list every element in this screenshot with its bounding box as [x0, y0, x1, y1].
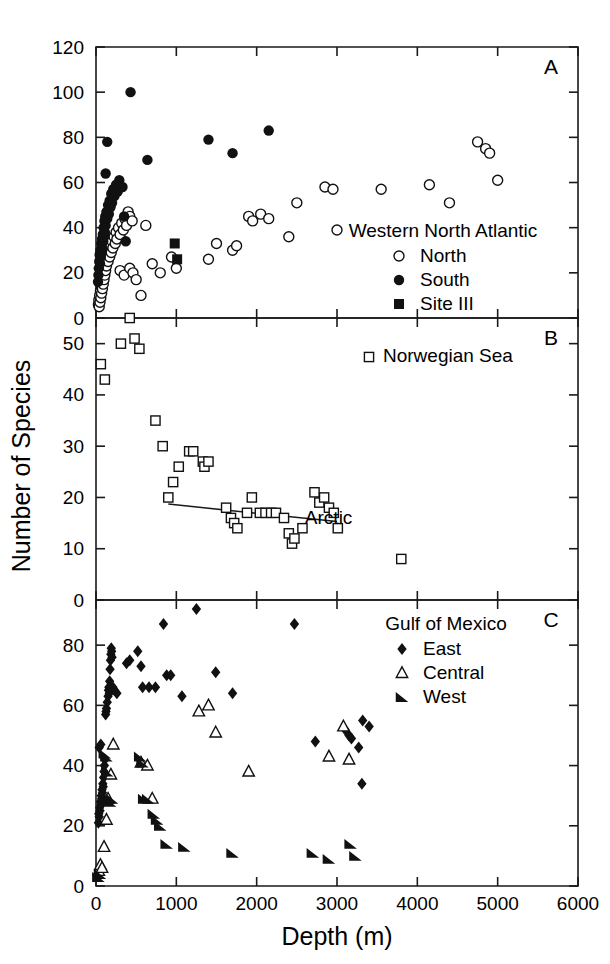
x-tick-label: 3000	[316, 893, 358, 914]
figure-root: 020406080100120AWestern North AtlanticNo…	[0, 0, 610, 964]
data-point	[171, 263, 181, 273]
data-point	[136, 290, 146, 300]
data-point	[174, 462, 183, 471]
data-point	[344, 839, 357, 849]
legend-marker	[396, 667, 407, 678]
data-point	[204, 457, 213, 466]
data-point	[290, 618, 299, 630]
panel-b: 01020304050BArcticNorwegian Sea	[63, 313, 578, 610]
data-point	[493, 175, 503, 185]
panel-letter-b: B	[544, 326, 558, 349]
data-point	[343, 753, 354, 764]
legend-entry-label: Central	[423, 662, 484, 683]
y-tick-label: 40	[63, 217, 84, 238]
data-point	[102, 137, 112, 147]
data-point	[264, 125, 274, 135]
data-point	[357, 778, 366, 790]
data-point	[164, 493, 173, 502]
data-point	[131, 275, 141, 285]
data-point	[192, 603, 201, 615]
y-tick-label: 10	[63, 538, 84, 559]
data-point	[279, 513, 288, 522]
data-point	[320, 493, 329, 502]
data-point	[160, 839, 173, 849]
x-tick-label: 0	[91, 893, 102, 914]
legend-title: Norwegian Sea	[383, 345, 513, 366]
x-tick-label: 4000	[396, 893, 438, 914]
y-tick-label: 0	[73, 308, 84, 329]
data-point	[311, 735, 320, 747]
data-point	[203, 254, 213, 264]
series-central	[93, 699, 355, 875]
data-point	[284, 232, 294, 242]
legend-entry-label: West	[423, 686, 467, 707]
data-point	[247, 493, 256, 502]
y-tick-label: 60	[63, 172, 84, 193]
data-point	[170, 238, 180, 248]
data-point	[189, 447, 198, 456]
y-tick-label: 30	[63, 436, 84, 457]
legend-title: Gulf of Mexico	[385, 613, 506, 634]
data-point	[117, 182, 127, 192]
legend-entry-label: North	[420, 245, 466, 266]
data-point	[125, 313, 134, 322]
panel-frame	[96, 600, 578, 886]
y-tick-label: 20	[63, 815, 84, 836]
data-point	[130, 334, 139, 343]
data-point	[141, 220, 151, 230]
data-point	[133, 645, 142, 657]
data-point	[211, 666, 220, 678]
series-norwegian-sea	[96, 313, 406, 563]
legend-marker	[397, 643, 406, 655]
x-tick-label: 6000	[557, 893, 599, 914]
data-point	[227, 148, 237, 158]
legend-a: Western North AtlanticNorthSouthSite III	[349, 220, 538, 314]
data-point	[328, 184, 338, 194]
legend-marker	[396, 692, 409, 702]
legend-entry-label: South	[420, 269, 470, 290]
data-point	[108, 738, 119, 749]
data-point	[323, 750, 334, 761]
data-point	[210, 726, 221, 737]
y-tick-label: 50	[63, 333, 84, 354]
x-axis-title: Depth (m)	[281, 922, 392, 950]
data-point	[147, 259, 157, 269]
legend-entry-label: Site III	[420, 293, 474, 314]
data-point	[159, 618, 168, 630]
data-point	[100, 375, 109, 384]
panel-frame	[96, 47, 578, 318]
series-west	[92, 749, 362, 882]
data-point	[169, 477, 178, 486]
panel-letter-c: C	[543, 608, 558, 631]
y-axis-ticks: 01020304050	[63, 333, 578, 610]
data-point	[228, 687, 237, 699]
data-point	[292, 198, 302, 208]
data-point	[264, 214, 274, 224]
data-point	[242, 508, 251, 517]
species-depth-scatter-figure: 020406080100120AWestern North AtlanticNo…	[0, 0, 610, 964]
data-point	[172, 254, 182, 264]
data-point	[290, 534, 299, 543]
panel-c: 0204060800100020003000400050006000CGulf …	[63, 600, 599, 914]
y-tick-label: 0	[73, 876, 84, 897]
data-point	[307, 848, 320, 858]
data-point	[119, 211, 129, 221]
legend-b: Norwegian Sea	[364, 345, 513, 366]
y-tick-label: 20	[63, 262, 84, 283]
data-point	[424, 180, 434, 190]
data-point	[222, 503, 231, 512]
data-point	[142, 155, 152, 165]
data-point	[134, 752, 147, 762]
data-point	[203, 134, 213, 144]
legend-marker	[394, 275, 404, 285]
series-south	[93, 87, 274, 287]
data-point	[323, 854, 336, 864]
data-point	[158, 442, 167, 451]
y-tick-label: 40	[63, 384, 84, 405]
data-point	[444, 198, 454, 208]
data-point	[212, 238, 222, 248]
y-tick-label: 60	[63, 695, 84, 716]
data-point	[332, 225, 342, 235]
data-point	[349, 851, 362, 861]
annotation-arctic: Arctic	[305, 507, 353, 528]
